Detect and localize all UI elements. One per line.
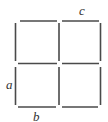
- matchstick-grid-diagram: a b c: [0, 0, 108, 122]
- label-c: c: [79, 3, 85, 18]
- label-a: a: [6, 77, 13, 92]
- label-b: b: [33, 109, 40, 122]
- segments-group: [16, 21, 101, 107]
